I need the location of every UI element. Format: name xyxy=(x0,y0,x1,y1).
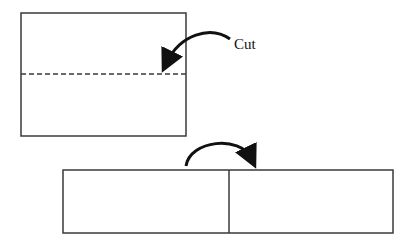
cut-arrow-icon xyxy=(167,33,230,62)
step2-group xyxy=(63,143,393,233)
flip-arrow-icon xyxy=(186,143,251,166)
step1-group: Cut xyxy=(21,13,257,136)
cut-label: Cut xyxy=(234,36,257,52)
diagram-canvas: Cut xyxy=(0,0,414,248)
unfolded-strip xyxy=(63,170,393,233)
